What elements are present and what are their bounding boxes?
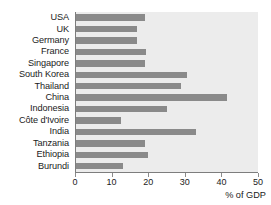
- x-tick-label: 30: [180, 178, 190, 187]
- bar-usa: [75, 14, 145, 21]
- y-axis-spine: [75, 12, 76, 173]
- category-label-france: France: [0, 46, 72, 57]
- bars-layer: [75, 12, 258, 172]
- bar-row: [75, 23, 258, 34]
- category-label-indonesia: Indonesia: [0, 103, 72, 114]
- category-label-thailand: Thailand: [0, 81, 72, 92]
- category-label-cote-divoire: Côte d'Ivoire: [0, 115, 72, 126]
- bar-singapore: [75, 60, 145, 67]
- category-label-usa: USA: [0, 12, 72, 23]
- bar-row: [75, 46, 258, 57]
- x-tick-label: 0: [72, 178, 77, 187]
- x-axis-title: % of GDP: [225, 191, 266, 200]
- category-label-germany: Germany: [0, 35, 72, 46]
- category-label-ethiopia: Ethiopia: [0, 149, 72, 160]
- bar-row: [75, 149, 258, 160]
- bar-ethiopia: [75, 152, 148, 159]
- bar-chart: USA UK Germany France Singapore South Ko…: [0, 0, 271, 205]
- x-tick-label: 40: [216, 178, 226, 187]
- category-label-burundi: Burundi: [0, 160, 72, 171]
- bar-row: [75, 103, 258, 114]
- bar-thailand: [75, 83, 181, 90]
- bar-row: [75, 138, 258, 149]
- bar-tanzania: [75, 140, 145, 147]
- bar-row: [75, 35, 258, 46]
- category-label-south-korea: South Korea: [0, 69, 72, 80]
- bar-china: [75, 94, 227, 101]
- category-label-china: China: [0, 92, 72, 103]
- bar-cote-divoire: [75, 117, 121, 124]
- plot-area: [75, 12, 258, 172]
- category-label-tanzania: Tanzania: [0, 138, 72, 149]
- x-tick-label: 50: [253, 178, 263, 187]
- bar-germany: [75, 37, 137, 44]
- bar-france: [75, 49, 146, 56]
- bar-row: [75, 81, 258, 92]
- bar-row: [75, 126, 258, 137]
- x-axis-line: [75, 172, 258, 173]
- category-label-india: India: [0, 126, 72, 137]
- x-tick-label: 20: [143, 178, 153, 187]
- bar-india: [75, 129, 196, 136]
- bar-indonesia: [75, 106, 167, 113]
- bar-row: [75, 58, 258, 69]
- bar-row: [75, 92, 258, 103]
- bar-row: [75, 160, 258, 171]
- bar-south-korea: [75, 72, 187, 79]
- bar-uk: [75, 26, 137, 33]
- category-label-singapore: Singapore: [0, 58, 72, 69]
- category-label-uk: UK: [0, 23, 72, 34]
- bar-row: [75, 12, 258, 23]
- bar-row: [75, 69, 258, 80]
- x-tick-label: 10: [107, 178, 117, 187]
- category-axis: USA UK Germany France Singapore South Ko…: [0, 12, 72, 172]
- bar-row: [75, 115, 258, 126]
- bar-burundi: [75, 163, 123, 170]
